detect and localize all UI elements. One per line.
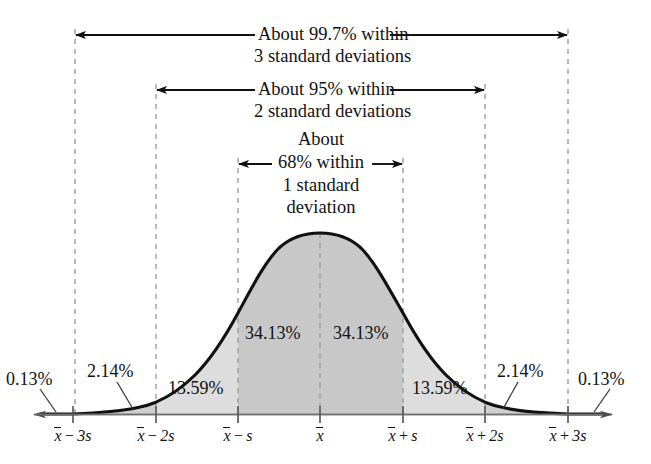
region-mid-right <box>403 313 485 414</box>
span-arrows <box>76 35 567 164</box>
leader-outer-right <box>503 382 518 409</box>
leader-outer-left <box>117 382 133 409</box>
normal-distribution-figure <box>0 0 651 464</box>
leader-tail-left <box>40 389 56 412</box>
region-center-left <box>238 233 320 414</box>
region-center-right <box>320 233 403 414</box>
region-mid-left <box>156 313 238 414</box>
leader-tail-right <box>594 389 610 412</box>
